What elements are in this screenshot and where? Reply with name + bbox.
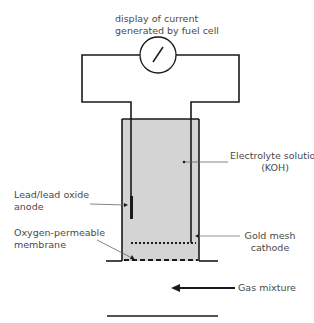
membrane-label: Oxygen-permeable membrane [14, 227, 105, 250]
membrane-label-line2: membrane [14, 239, 105, 251]
electrolyte-solution [122, 119, 199, 261]
anode-bar [130, 196, 133, 219]
cathode-label-line2: cathode [240, 242, 300, 254]
fuel-cell-diagram: display of current generated by fuel cel… [0, 0, 314, 323]
anode-label: Lead/lead oxide anode [14, 189, 89, 212]
display-label: display of current generated by fuel cel… [115, 13, 219, 36]
anode-label-line1: Lead/lead oxide [14, 189, 89, 201]
electrolyte-label-line2: (KOH) [230, 162, 314, 174]
membrane-label-line1: Oxygen-permeable [14, 227, 105, 239]
anode-label-line2: anode [14, 201, 89, 213]
gas-flow-arrow-icon [171, 284, 180, 292]
anode-leader [90, 204, 126, 205]
electrolyte-label: Electrolyte solution (KOH) [230, 150, 314, 173]
display-label-line2: generated by fuel cell [115, 25, 219, 37]
circuit-wire-left [82, 55, 140, 218]
electrolyte-label-line1: Electrolyte solution [230, 150, 314, 162]
gas-mixture-label: Gas mixture [238, 282, 296, 294]
electrolyte-leader-dot [183, 161, 186, 164]
cathode-label-line1: Gold mesh [240, 230, 300, 242]
cathode-label: Gold mesh cathode [240, 230, 300, 253]
display-label-line1: display of current [115, 13, 219, 25]
